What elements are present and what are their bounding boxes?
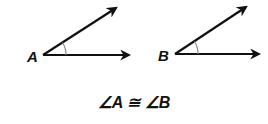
angle-arc-a	[63, 43, 67, 56]
angle-b	[175, 7, 259, 54]
vertex-label-b: B	[158, 48, 169, 63]
angle-arc-b	[195, 42, 199, 55]
congruence-caption: ∠A ≅ ∠B	[0, 93, 268, 112]
vertex-label-a: A	[27, 49, 38, 64]
angle-a	[43, 8, 129, 55]
